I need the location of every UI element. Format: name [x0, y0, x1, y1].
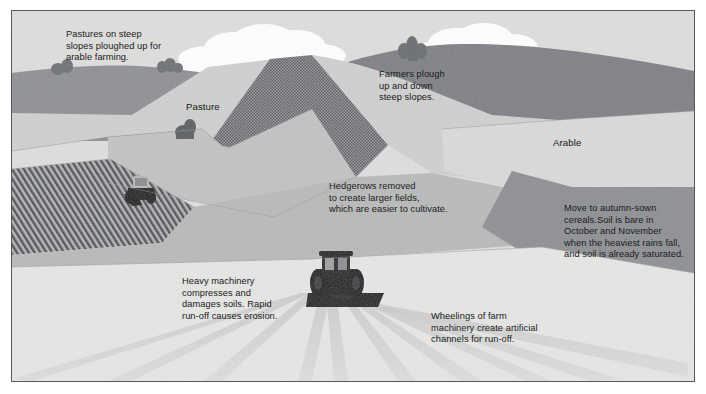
field-label-arable: Arable — [553, 137, 581, 148]
figure-root: Pastures on steep slopes ploughed up for… — [0, 0, 706, 394]
illustration-frame: Pastures on steep slopes ploughed up for… — [11, 10, 695, 382]
field-label-pasture: Pasture — [186, 101, 220, 112]
landscape-artwork — [12, 11, 694, 381]
landscape-scene: Pastures on steep slopes ploughed up for… — [12, 11, 694, 381]
